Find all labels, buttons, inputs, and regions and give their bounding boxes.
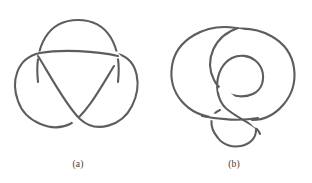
figure-panel-a: (a) bbox=[0, 0, 156, 183]
trefoil-strand-right bbox=[38, 54, 138, 127]
figure-panel-b: (b) bbox=[156, 0, 312, 183]
fig8-strand-outer-right bbox=[228, 29, 294, 120]
figure-plate: (a) bbox=[0, 0, 312, 183]
trefoil-strand-left bbox=[15, 51, 118, 127]
fig8-strand-bottom-loop bbox=[211, 110, 256, 146]
figure-caption-b: (b) bbox=[156, 158, 312, 170]
fig8-strand-lower-horizontal bbox=[202, 116, 258, 120]
trefoil-knot-diagram bbox=[0, 6, 156, 152]
figure-caption-a: (a) bbox=[0, 158, 156, 170]
fig8-strand-outer-left bbox=[171, 27, 236, 118]
figure-eight-knot-diagram bbox=[156, 6, 312, 152]
